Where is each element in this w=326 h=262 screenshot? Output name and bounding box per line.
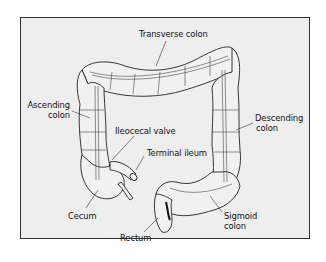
label-descending-colon-line2: colon: [255, 124, 303, 134]
leader-transverse: [156, 41, 166, 66]
label-ascending-colon: Ascending colon: [22, 101, 70, 120]
label-descending-colon: Descending colon: [255, 114, 303, 133]
label-terminal-ileum: Terminal ileum: [147, 149, 207, 159]
leader-ileocecal: [112, 136, 134, 160]
label-rectum: Rectum: [120, 234, 151, 244]
label-ascending-colon-line2: colon: [22, 111, 70, 121]
label-sigmoid-colon: Sigmoid colon: [224, 212, 257, 231]
label-ileocecal-valve: Ileocecal valve: [115, 127, 176, 137]
label-transverse-colon: Transverse colon: [139, 30, 208, 40]
leader-rectum: [144, 218, 158, 232]
rectum-shape: [154, 194, 172, 232]
label-sigmoid-colon-line2: colon: [224, 222, 257, 232]
leader-terminal-ileum: [136, 156, 144, 170]
label-cecum: Cecum: [68, 212, 97, 222]
